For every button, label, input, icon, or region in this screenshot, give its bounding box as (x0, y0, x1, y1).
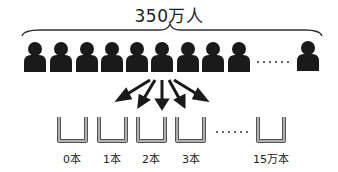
cups-ellipsis (216, 131, 248, 133)
person-icon (177, 42, 199, 72)
cup-icon (99, 117, 126, 141)
person-icon (151, 42, 173, 72)
person-icon (202, 42, 224, 72)
cups-inner (59, 117, 284, 141)
diagram-canvas (0, 0, 338, 172)
person-icon (126, 42, 148, 72)
cup-label: 0本 (52, 150, 92, 166)
cup-label: 2本 (131, 150, 171, 166)
cup-label: 1本 (92, 150, 132, 166)
person-icon (297, 41, 319, 71)
brace (22, 24, 322, 36)
person-icon (228, 42, 250, 72)
cup-icon (258, 117, 284, 141)
people-ellipsis (257, 61, 289, 63)
cup-label: 3本 (171, 150, 211, 166)
person-icon (101, 42, 123, 72)
person-icon (76, 42, 98, 72)
cup-icon (177, 117, 204, 141)
person-icon (50, 42, 72, 72)
cup-icon (59, 117, 86, 141)
cup-label: 15万本 (251, 150, 291, 166)
people-row (24, 41, 319, 72)
cups (59, 117, 284, 141)
cup-icon (138, 117, 165, 141)
person-icon (24, 42, 46, 72)
distribution-arrows (118, 80, 206, 108)
